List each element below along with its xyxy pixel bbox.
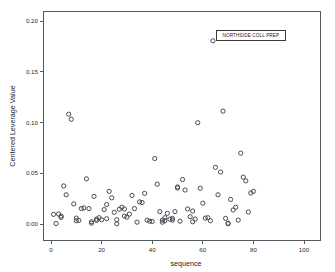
data-point	[130, 193, 134, 197]
data-point	[218, 170, 222, 174]
data-point	[183, 188, 187, 192]
data-point	[92, 194, 96, 198]
data-point	[158, 210, 162, 214]
data-point	[191, 209, 195, 213]
data-point	[193, 217, 197, 221]
data-point	[236, 218, 240, 222]
data-point	[196, 121, 200, 125]
data-point	[143, 191, 147, 195]
x-tick-label: 20	[98, 246, 105, 253]
data-point	[244, 179, 248, 183]
y-axis-title: Centered Leverage Value	[8, 85, 17, 166]
data-point	[132, 206, 136, 210]
data-point	[165, 211, 169, 215]
data-point	[87, 206, 91, 210]
data-point	[54, 221, 58, 225]
point-annotation-callout: NORTHSIDE COLL PREP	[216, 31, 285, 41]
data-point	[127, 212, 131, 216]
data-point	[208, 219, 212, 223]
x-tick-label: 40	[149, 246, 156, 253]
data-point	[216, 193, 220, 197]
y-tick-label: 0.20	[26, 17, 39, 24]
data-point	[188, 215, 192, 219]
data-point	[229, 197, 233, 201]
data-point	[221, 109, 225, 113]
y-tick-label: 0.05	[26, 169, 39, 176]
scatter-plot-figure: 0.000.050.100.150.20 020406080100 NORTHS…	[0, 0, 335, 272]
data-point	[82, 206, 86, 210]
data-point	[173, 210, 177, 214]
data-point	[201, 201, 205, 205]
y-tick-label: 0.15	[26, 68, 39, 75]
y-tick-label: 0.10	[26, 119, 39, 126]
data-point	[51, 212, 55, 216]
data-point	[246, 210, 250, 214]
data-point	[110, 196, 114, 200]
data-point	[135, 220, 139, 224]
y-axis-ticks: 0.000.050.100.150.20	[26, 17, 44, 227]
plot-canvas: 0.000.050.100.150.20 020406080100 NORTHS…	[0, 0, 335, 272]
data-point	[198, 186, 202, 190]
x-tick-label: 80	[250, 246, 257, 253]
data-point	[84, 177, 88, 181]
x-axis-title: sequence	[170, 259, 201, 268]
annotation-label: NORTHSIDE COLL PREP	[223, 33, 280, 38]
y-tick-label: 0.00	[26, 220, 39, 227]
x-tick-label: 100	[299, 246, 310, 253]
data-point	[186, 207, 190, 211]
data-point	[234, 205, 238, 209]
data-point	[69, 117, 73, 121]
data-point	[105, 217, 109, 221]
data-point	[213, 165, 217, 169]
data-point	[62, 184, 66, 188]
data-point	[155, 182, 159, 186]
data-point	[191, 220, 195, 224]
data-point	[239, 151, 243, 155]
data-point	[102, 207, 106, 211]
x-axis-ticks: 020406080100	[49, 241, 309, 253]
x-tick-label: 60	[199, 246, 206, 253]
data-point	[178, 219, 182, 223]
data-point	[67, 112, 71, 116]
data-point	[211, 39, 215, 43]
data-point	[223, 216, 227, 220]
data-point	[105, 202, 109, 206]
data-point	[64, 193, 68, 197]
data-point	[180, 177, 184, 181]
x-tick-label: 0	[49, 246, 53, 253]
data-point	[140, 200, 144, 204]
data-point	[153, 156, 157, 160]
data-point	[107, 189, 111, 193]
data-point-series	[51, 39, 255, 226]
data-point	[112, 210, 116, 214]
data-point	[72, 202, 76, 206]
